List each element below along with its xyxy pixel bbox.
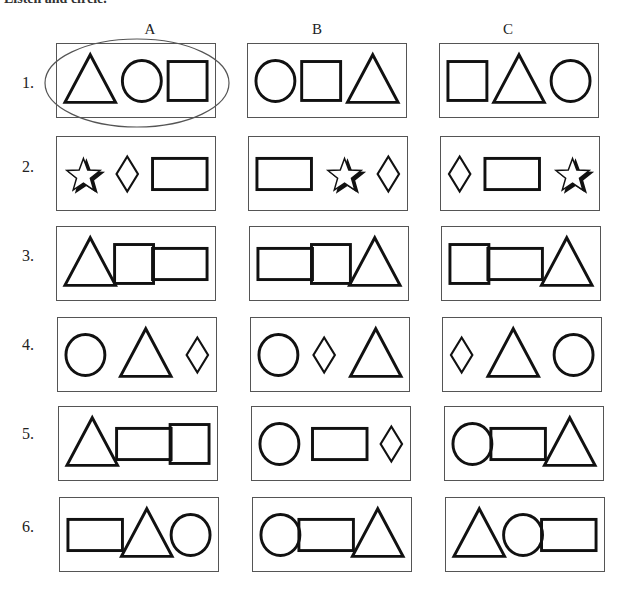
square-icon: [302, 62, 341, 101]
option-3a[interactable]: [56, 226, 216, 301]
column-label-a: A: [140, 21, 160, 38]
circle-icon: [171, 515, 210, 556]
rectangle-icon: [491, 428, 546, 459]
rectangle-icon: [299, 519, 354, 550]
triangle-icon: [67, 418, 118, 466]
circle-icon: [504, 515, 543, 556]
circle-icon: [261, 515, 300, 556]
circle-icon: [256, 61, 295, 102]
triangle-icon: [488, 329, 539, 377]
rectangle-icon: [117, 428, 172, 459]
circle-icon: [453, 424, 492, 465]
diamond-icon: [449, 156, 470, 191]
square-icon: [170, 425, 209, 464]
column-label-c: C: [498, 21, 518, 38]
square-icon: [115, 245, 154, 284]
option-6c[interactable]: [445, 497, 605, 572]
star-icon: [556, 158, 592, 192]
option-1b[interactable]: [247, 43, 407, 118]
triangle-icon: [349, 238, 400, 286]
star-icon: [67, 158, 103, 192]
rectangle-icon: [68, 519, 123, 550]
option-3b[interactable]: [249, 226, 409, 301]
row-number-label: 3.: [22, 247, 44, 265]
circle-icon: [260, 424, 299, 465]
rectangle-icon: [258, 248, 313, 279]
triangle-icon: [352, 509, 403, 557]
option-5c[interactable]: [444, 406, 604, 481]
option-1c[interactable]: [439, 43, 599, 118]
option-4a[interactable]: [57, 317, 217, 392]
square-icon: [448, 62, 487, 101]
rectangle-icon: [257, 158, 312, 189]
instruction-text: Listen and circle.: [4, 0, 107, 7]
option-6a[interactable]: [59, 497, 219, 572]
row-number-label: 6.: [22, 518, 44, 536]
triangle-icon: [350, 329, 401, 377]
triangle-icon: [454, 509, 505, 557]
rectangle-icon: [313, 428, 368, 459]
star-icon: [328, 158, 364, 192]
triangle-icon: [120, 329, 171, 377]
rectangle-icon: [488, 248, 543, 279]
row-number-label: 2.: [22, 158, 44, 176]
rectangle-icon: [542, 519, 597, 550]
option-6b[interactable]: [252, 497, 412, 572]
option-2c[interactable]: [440, 136, 600, 211]
row-number-label: 4.: [22, 336, 44, 354]
triangle-icon: [65, 238, 116, 286]
triangle-icon: [541, 238, 592, 286]
triangle-icon: [544, 418, 595, 466]
diamond-icon: [313, 337, 334, 372]
diamond-icon: [117, 156, 138, 191]
rectangle-icon: [153, 158, 208, 189]
triangle-icon: [121, 509, 172, 557]
option-2b[interactable]: [248, 136, 408, 211]
triangle-icon: [65, 55, 116, 103]
circle-icon: [551, 61, 590, 102]
square-icon: [311, 245, 350, 284]
rectangle-icon: [485, 158, 540, 189]
option-4c[interactable]: [442, 317, 602, 392]
diamond-icon: [378, 156, 399, 191]
triangle-icon: [494, 55, 545, 103]
option-4b[interactable]: [250, 317, 410, 392]
circle-icon: [66, 335, 105, 376]
option-5b[interactable]: [251, 406, 411, 481]
square-icon: [450, 245, 489, 284]
option-3c[interactable]: [441, 226, 601, 301]
option-5a[interactable]: [58, 406, 218, 481]
option-1a[interactable]: [56, 43, 216, 118]
square-icon: [168, 62, 207, 101]
row-number-label: 1.: [22, 74, 44, 92]
row-number-label: 5.: [22, 425, 44, 443]
triangle-icon: [347, 55, 398, 103]
diamond-icon: [381, 426, 402, 461]
diamond-icon: [451, 337, 472, 372]
diamond-icon: [187, 337, 208, 372]
circle-icon: [554, 335, 593, 376]
circle-icon: [122, 61, 161, 102]
rectangle-icon: [153, 248, 208, 279]
circle-icon: [259, 335, 298, 376]
option-2a[interactable]: [56, 136, 216, 211]
column-label-b: B: [307, 21, 327, 38]
